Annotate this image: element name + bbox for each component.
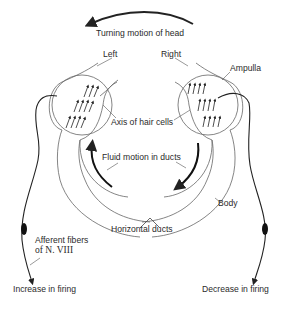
afferent-label-line2: of N. VIII xyxy=(35,245,73,255)
increase-firing-label: Increase in firing xyxy=(13,284,76,294)
right-afferent-nerve xyxy=(218,93,268,282)
horizontal-ducts-label: Horizontal ducts xyxy=(111,224,173,234)
right-hair-cell-arrows xyxy=(188,84,220,127)
afferent-label-line1: Afferent fibers xyxy=(35,235,88,245)
left-ampulla xyxy=(49,63,150,237)
turning-motion-label: Turning motion of head xyxy=(96,28,184,38)
right-ampulla xyxy=(142,63,243,237)
left-hair-cell-arrows xyxy=(66,86,98,128)
left-label: Left xyxy=(103,49,117,59)
right-label: Right xyxy=(161,49,181,59)
fluid-motion-label: Fluid motion in ducts xyxy=(102,152,181,162)
ampulla-label: Ampulla xyxy=(230,63,261,73)
turning-motion-arrow xyxy=(90,12,193,24)
axis-hair-cells-label: Axis of hair cells xyxy=(111,117,173,127)
body-label: Body xyxy=(218,198,238,208)
decrease-firing-label: Decrease in firing xyxy=(202,284,269,294)
